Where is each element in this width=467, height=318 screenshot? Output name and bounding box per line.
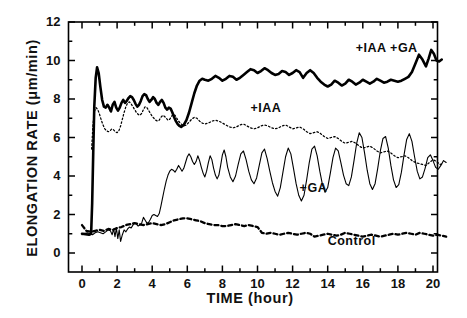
x-tick-label: 0	[69, 276, 95, 291]
x-tick-label: 2	[104, 276, 130, 291]
x-tick-label: 6	[174, 276, 200, 291]
x-tick-label: 20	[420, 276, 446, 291]
annotation-ga: +GA	[300, 181, 328, 195]
y-tick-label: 8	[35, 91, 61, 106]
x-axis-label: TIME (hour)	[150, 290, 350, 306]
series-line-ga	[82, 133, 446, 242]
figure-container: ELONGATION RATE (μm/min) TIME (hour) 024…	[0, 0, 467, 318]
x-tick-label: 4	[139, 276, 165, 291]
annotation-control: Control	[328, 234, 376, 248]
x-tick-label: 12	[280, 276, 306, 291]
y-tick-label: 2	[35, 207, 61, 222]
x-tick-label: 16	[350, 276, 376, 291]
y-tick-label: 0	[35, 245, 61, 260]
y-tick-label: 4	[35, 168, 61, 183]
x-tick-label: 8	[209, 276, 235, 291]
series-line-iaa-ga	[82, 50, 442, 235]
axis-ticks	[69, 22, 438, 272]
y-tick-label: 10	[35, 53, 61, 68]
x-tick-label: 18	[385, 276, 411, 291]
annotation-iaa: +IAA	[250, 101, 281, 115]
x-tick-label: 14	[315, 276, 341, 291]
series-line-control	[82, 218, 446, 236]
plot-frame	[69, 22, 438, 272]
annotation-iaa-ga: +IAA +GA	[356, 41, 418, 55]
x-tick-label: 10	[245, 276, 271, 291]
y-tick-label: 12	[35, 14, 61, 29]
y-tick-label: 6	[35, 130, 61, 145]
